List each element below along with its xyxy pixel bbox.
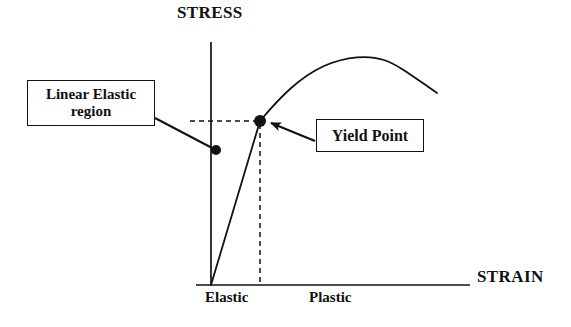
y-axis-title: STRESS	[177, 3, 243, 22]
region-label-elastic: Elastic	[205, 289, 248, 306]
stress-strain-curve	[211, 57, 437, 285]
linear-elastic-marker-dot	[211, 145, 221, 155]
region-label-plastic: Plastic	[309, 289, 352, 306]
yield-point-arrow	[271, 123, 315, 141]
x-axis-title: STRAIN	[477, 267, 544, 286]
callout-yield-point: Yield Point	[316, 119, 424, 152]
yield-point-marker-dot	[254, 115, 266, 127]
linear-elastic-leader-line	[155, 118, 214, 149]
callout-linear-elastic-region: Linear Elastic region	[27, 80, 155, 126]
stress-strain-diagram: STRESS STRAIN Elastic Plastic Linear Ela…	[0, 0, 571, 327]
